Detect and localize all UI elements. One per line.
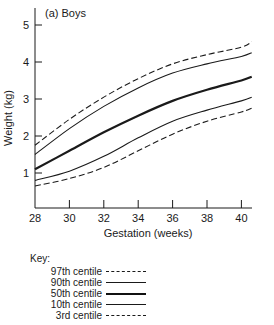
y-tick-label: 1	[23, 167, 29, 179]
line-10th-centile	[35, 97, 252, 180]
legend-item: 3rd centile	[32, 310, 146, 321]
line-90th-centile	[35, 53, 252, 155]
legend-swatch-icon	[106, 315, 146, 316]
legend-label: 50th centile	[32, 288, 106, 299]
y-axis-title: Weight (kg)	[2, 90, 14, 146]
y-tick-label: 5	[23, 19, 29, 31]
legend-label: 10th centile	[32, 299, 106, 310]
centile-chart: 1234528303234363840 (a) Boys Gestation (…	[0, 0, 274, 250]
legend-label: 97th centile	[32, 266, 106, 277]
y-tick-label: 3	[23, 93, 29, 105]
legend-swatch-icon	[106, 282, 146, 283]
legend-label: 3rd centile	[32, 310, 106, 321]
key-title: Key:	[30, 253, 50, 264]
x-tick-label: 34	[132, 212, 144, 224]
y-tick-label: 4	[23, 56, 29, 68]
x-tick-label: 30	[63, 212, 75, 224]
y-tick-label: 2	[23, 130, 29, 142]
legend-item: 10th centile	[32, 299, 146, 310]
legend-swatch-icon	[106, 293, 146, 295]
legend-item: 50th centile	[32, 288, 146, 299]
legend: 97th centile90th centile50th centile10th…	[32, 266, 146, 321]
legend-item: 90th centile	[32, 277, 146, 288]
legend-swatch-icon	[106, 271, 146, 272]
legend-swatch-icon	[106, 304, 146, 305]
line-3rd-centile	[35, 108, 252, 186]
x-tick-label: 28	[29, 212, 41, 224]
x-tick-label: 36	[166, 212, 178, 224]
chart-title: (a) Boys	[45, 7, 86, 19]
x-tick-label: 38	[201, 212, 213, 224]
x-tick-label: 40	[235, 212, 247, 224]
centile-lines	[35, 42, 252, 186]
legend-item: 97th centile	[32, 266, 146, 277]
line-50th-centile	[35, 77, 252, 170]
x-tick-label: 32	[98, 212, 110, 224]
legend-label: 90th centile	[32, 277, 106, 288]
x-axis-title: Gestation (weeks)	[104, 227, 193, 239]
